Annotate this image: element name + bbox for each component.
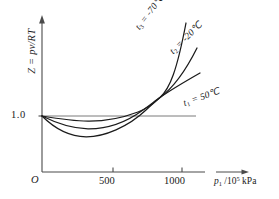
y-axis-label-denominator: RT (26, 29, 37, 42)
x-axis-label: p1 /105 kPa (214, 176, 256, 187)
y-tick-label-1.0: 1.0 (11, 110, 26, 121)
x-axis-label-unit-tail: kPa (240, 176, 257, 186)
x-axis (42, 168, 205, 173)
x-axis-arrow-icon (216, 169, 249, 174)
y-axis (39, 15, 45, 172)
x-tick-label-500: 500 (99, 176, 115, 187)
compressibility-factor-chart: Z = pv/RT 1.0 O 500 1000 p1 /105 kPa t3 … (0, 0, 279, 199)
x-axis-label-units: /10 (222, 176, 237, 186)
y-axis-label-numerator: pv (26, 45, 37, 55)
y-axis-label-eq: = (26, 55, 37, 68)
curve-t1-50c (42, 73, 200, 121)
y-axis-label-lhs: Z (26, 68, 37, 74)
y-axis-label-slash: / (26, 41, 37, 44)
x-tick-label-1000: 1000 (164, 176, 185, 187)
origin-label: O (31, 175, 39, 186)
y-axis-label: Z = pv/RT (27, 7, 38, 95)
